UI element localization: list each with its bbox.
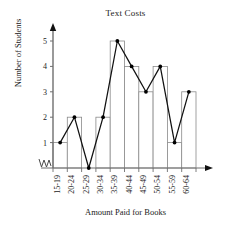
histogram-bar xyxy=(182,92,196,168)
x-axis-tick-label: 45-49 xyxy=(139,175,148,194)
y-axis-tick-label: 3 xyxy=(43,88,47,97)
x-axis-ticks: 15-1920-2425-2930-3435-3940-4445-4950-54… xyxy=(53,168,196,194)
histogram-bar xyxy=(110,41,124,168)
y-axis-tick-label: 5 xyxy=(43,37,47,46)
x-axis-tick-label: 25-29 xyxy=(82,175,91,194)
y-axis-arrowhead xyxy=(50,23,56,31)
histogram-bar xyxy=(53,143,67,168)
x-axis-tick-label: 20-24 xyxy=(67,175,76,194)
data-point-marker xyxy=(173,141,177,145)
chart-container: Text Costs Number of Students Amount Pai… xyxy=(0,0,251,227)
data-point-marker xyxy=(187,90,191,94)
x-axis-tick-label: 60-64 xyxy=(182,175,191,194)
x-axis-tick-label: 15-19 xyxy=(53,175,62,194)
data-point-marker xyxy=(130,65,134,69)
x-axis-tick-label: 55-59 xyxy=(168,175,177,194)
x-axis-tick-label: 40-44 xyxy=(125,175,134,194)
data-point-marker xyxy=(144,90,148,94)
y-axis-tick-label: 2 xyxy=(43,113,47,122)
data-point-marker xyxy=(87,166,91,170)
histogram-bar xyxy=(139,92,153,168)
histogram-bar xyxy=(167,143,181,168)
x-axis-tick-label: 35-39 xyxy=(110,175,119,194)
y-axis-tick-label: 4 xyxy=(43,62,47,71)
y-axis-tick-label: 1 xyxy=(43,139,47,148)
data-point-marker xyxy=(115,39,119,43)
x-axis-arrowhead xyxy=(205,165,213,171)
axis-break-zigzag xyxy=(39,159,51,167)
bars-group xyxy=(53,41,196,168)
data-point-marker xyxy=(101,115,105,119)
histogram-bar xyxy=(96,117,110,168)
x-axis-tick-label: 30-34 xyxy=(96,175,105,194)
data-point-marker xyxy=(58,141,62,145)
histogram-bar xyxy=(153,66,167,168)
data-point-marker xyxy=(73,115,77,119)
chart-plot-area: 12345 15-1920-2425-2930-3435-3940-4445-4… xyxy=(0,0,251,227)
histogram-bar xyxy=(125,66,139,168)
x-axis-tick-label: 50-54 xyxy=(153,175,162,194)
data-point-marker xyxy=(158,65,162,69)
y-axis-ticks: 12345 xyxy=(43,37,53,148)
